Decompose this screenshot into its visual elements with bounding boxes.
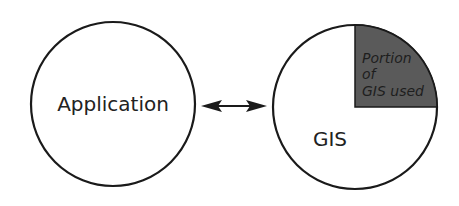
bidirectional-arrow bbox=[201, 100, 267, 112]
application-label: Application bbox=[57, 92, 169, 116]
application-node: Application bbox=[31, 22, 195, 186]
portion-label-line-2: of bbox=[362, 66, 378, 82]
portion-label-line-1: Portion bbox=[362, 50, 412, 66]
portion-label-line-3: GIS used bbox=[362, 83, 424, 99]
gis-label: GIS bbox=[313, 127, 347, 151]
gis-node: GIS Portion of GIS used bbox=[273, 25, 437, 189]
diagram-canvas: Application GIS Portion of GIS used bbox=[0, 0, 459, 206]
